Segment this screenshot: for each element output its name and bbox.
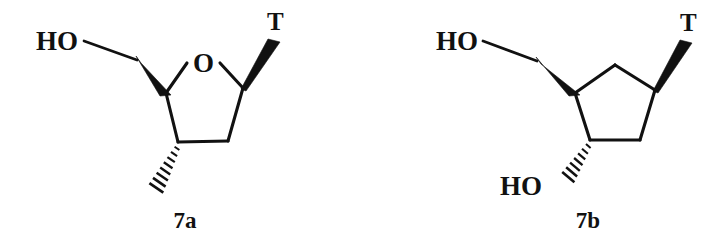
bond-oxygen-to-c1 [220,63,243,88]
bond-c2-to-c1 [228,88,243,141]
chemical-structure-figure: O T HO 7a [0,0,727,241]
bond-c4-to-c3 [166,93,178,142]
wedge-c3-to-base [653,40,692,93]
atom-label-ring-oxygen: O [193,48,214,78]
bond-ho-to-ch2 [483,41,537,61]
structure-7a: O T HO 7a [0,0,370,241]
bond-c5-to-c1 [575,93,590,140]
bond-c3-to-c4 [640,90,655,140]
atom-label-base-t: T [267,8,284,35]
wedge-c1-to-base [241,39,280,91]
hashed-wedge-c3-to-methyl [149,147,179,193]
wedge-ch2-to-c1 [536,57,580,96]
bond-c1-to-c2 [575,65,615,93]
compound-caption-7a: 7a [174,208,198,233]
hashed-wedge-c5-to-hydroxyl [562,144,590,182]
structure-7b: T HO HO 7b [370,0,727,241]
wedge-ch2-to-c4 [136,56,171,96]
atom-label-hydroxyl-ho: HO [500,171,542,201]
bond-c4-to-oxygen [166,63,187,93]
bond-ho-to-ch2 [84,41,137,60]
bond-c3-to-c2 [178,141,228,142]
compound-caption-7b: 7b [576,208,600,233]
atom-label-base-t: T [680,9,697,36]
atom-label-hydroxymethyl-ho: HO [436,26,478,56]
atom-label-hydroxyl-ho: HO [36,26,78,56]
bond-c2-to-c3 [615,65,655,90]
